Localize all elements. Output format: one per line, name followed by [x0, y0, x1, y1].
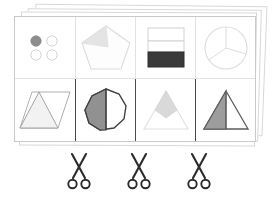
circles-group-icon: [23, 28, 67, 68]
worksheet-sheet-front: [14, 16, 256, 142]
scissors-icon: [126, 152, 152, 194]
rectangle-bars-icon: [146, 26, 186, 70]
scissors-icon-2[interactable]: [126, 152, 152, 194]
triangle-half-icon: [201, 88, 251, 132]
scissors-icon: [186, 152, 212, 194]
parallelogram-triangle-icon: [18, 88, 72, 132]
cut-marks-row: [14, 146, 256, 198]
shape-grid: [15, 17, 255, 141]
shape-cell-pentagon[interactable]: [75, 17, 135, 79]
scissors-icon: [66, 152, 92, 194]
triangle-kite-icon: [141, 88, 191, 132]
shape-cell-parallelogram-triangle[interactable]: [15, 79, 75, 141]
shape-cell-triangle-kite[interactable]: [135, 79, 195, 141]
shape-cell-circle-pie[interactable]: [195, 17, 255, 79]
scissors-icon-3[interactable]: [186, 152, 212, 194]
nonagon-half-icon: [83, 87, 129, 133]
shape-cell-circles-group[interactable]: [15, 17, 75, 79]
circle-pie-icon: [202, 24, 250, 72]
shape-cell-nonagon-half[interactable]: [75, 79, 135, 141]
scissors-icon-1[interactable]: [66, 152, 92, 194]
pentagon-icon: [80, 23, 132, 73]
shape-cell-triangle-half[interactable]: [195, 79, 255, 141]
shape-cell-rectangle-bars[interactable]: [135, 17, 195, 79]
worksheet-stage: [0, 0, 278, 202]
